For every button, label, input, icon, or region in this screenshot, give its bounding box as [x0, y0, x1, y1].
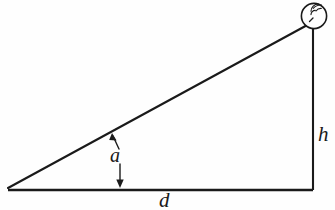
radio-antenna-icon	[301, 3, 326, 28]
triangle-diagram-svg	[0, 0, 335, 210]
figure-canvas: h d a	[0, 0, 335, 210]
label-height-h: h	[318, 124, 329, 145]
hypotenuse-line	[8, 23, 311, 188]
label-angle-a: a	[110, 145, 120, 165]
label-distance-d: d	[159, 190, 170, 210]
angle-arrow-down	[116, 164, 123, 188]
